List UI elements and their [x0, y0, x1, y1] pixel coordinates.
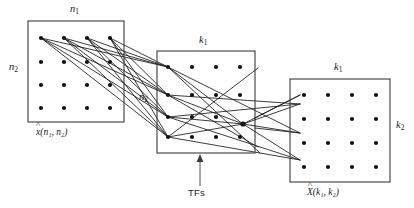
tfs-arrow — [197, 154, 204, 186]
grid-dot — [238, 65, 242, 69]
grid-dot — [39, 106, 43, 110]
grid-dot — [108, 36, 112, 40]
grid-dot — [39, 60, 43, 64]
grid-dot — [350, 117, 354, 121]
grid-dot — [190, 115, 194, 119]
grid-dot — [374, 141, 378, 145]
box-spatial-domain — [28, 21, 124, 122]
connection-line — [168, 124, 243, 137]
grid-dot — [350, 165, 354, 169]
grid-dot — [108, 106, 112, 110]
grid-dot — [350, 93, 354, 97]
grid-dot — [214, 135, 218, 139]
grid-dot — [326, 93, 330, 97]
grid-dot — [166, 135, 170, 139]
grid-dot — [190, 135, 194, 139]
grid-dot — [62, 83, 66, 87]
label-left-box-side: n2 — [9, 62, 18, 73]
grid-dot — [166, 65, 170, 69]
grid-dot — [62, 106, 66, 110]
caption-left-box: ^x(n₁, n₂) — [36, 128, 67, 138]
caption-hat-group: ^X — [307, 188, 313, 198]
connection-line — [255, 128, 300, 133]
label-middle-box-top: k1 — [199, 35, 207, 46]
connection-line — [243, 124, 300, 160]
grid-dot — [39, 83, 43, 87]
grid-dot — [85, 83, 89, 87]
grid-dot — [238, 135, 242, 139]
grid-dot — [374, 117, 378, 121]
grid-dot — [166, 93, 170, 97]
label-right-box-top: k1 — [334, 62, 342, 73]
diagram-svg — [0, 0, 414, 208]
grid-dot — [190, 65, 194, 69]
grid-dot — [62, 60, 66, 64]
grid-dot — [108, 60, 112, 64]
grid-dot — [85, 60, 89, 64]
connection-line — [168, 137, 300, 160]
caption-hat-group: ^x — [36, 128, 40, 138]
label-left-box-top: n1 — [70, 4, 79, 15]
grid-dot — [302, 165, 306, 169]
figure-canvas: n1 n2 ^x(n₁, n₂) k1 n2 TFs k1 k2 ^X(k₁, … — [0, 0, 414, 208]
grid-dot — [350, 141, 354, 145]
caption-right-box: ^X(k₁, k₂) — [307, 188, 339, 198]
grid-dot — [302, 117, 306, 121]
grid-dot — [85, 106, 89, 110]
grid-dot — [326, 141, 330, 145]
grid-dot — [190, 93, 194, 97]
grid-dot — [326, 165, 330, 169]
grid-dot — [214, 93, 218, 97]
grid-dot — [302, 141, 306, 145]
grid-dot — [108, 83, 112, 87]
tfs-arrow-head — [197, 154, 204, 162]
grid-dot — [374, 165, 378, 169]
grid-dot — [62, 36, 66, 40]
grid-dot — [238, 93, 242, 97]
grid-dot — [302, 93, 306, 97]
grid-dot — [214, 65, 218, 69]
grid-dot — [85, 36, 89, 40]
connection-line — [168, 67, 260, 153]
grid-dot — [166, 115, 170, 119]
label-middle-box-side: n2 — [139, 92, 148, 103]
connection-line — [110, 38, 168, 117]
connections-middle-internal — [168, 67, 300, 160]
connection-line — [41, 38, 168, 95]
grid-dot — [39, 36, 43, 40]
connection-line — [64, 38, 168, 117]
box-frequency-domain — [290, 79, 390, 182]
grid-dot — [374, 93, 378, 97]
label-right-box-side: k2 — [396, 120, 404, 131]
grid-dot — [326, 117, 330, 121]
grid-dot — [214, 115, 218, 119]
tfs-label: TFs — [188, 188, 205, 198]
